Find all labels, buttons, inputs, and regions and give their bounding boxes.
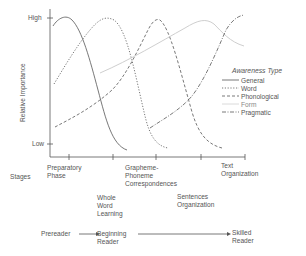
stages-label: Stages <box>10 173 31 181</box>
legend-swatch-dashed <box>222 94 239 98</box>
chart-canvas <box>0 0 306 256</box>
series-general <box>53 17 127 150</box>
legend-swatch-dotted <box>222 86 239 90</box>
stage-sentences: Sentences Organization <box>177 193 214 209</box>
arrowhead-icon <box>227 232 231 236</box>
legend-item-form: Form <box>222 100 256 108</box>
legend-label: Pragmatic <box>241 109 271 116</box>
series-phonological <box>55 19 222 148</box>
legend-label: Form <box>241 101 256 108</box>
legend-swatch-light <box>222 102 239 106</box>
stage-grapheme: Grapheme- Phoneme Correspondences <box>125 164 177 189</box>
progression-prereader: Prereader <box>41 230 70 238</box>
legend-item-word: Word <box>222 84 257 92</box>
legend-label: General <box>241 77 264 84</box>
y-axis-label: Relative Importance <box>19 63 26 122</box>
stage-whole-word: Whole Word Learning <box>97 194 123 219</box>
legend-title: Awareness Type <box>232 67 282 74</box>
legend-label: Word <box>241 85 257 92</box>
series-form <box>100 21 244 73</box>
legend-swatch-solid <box>222 78 239 82</box>
stage-preparatory: Preparatory Phase <box>47 164 81 180</box>
series-word <box>54 18 168 148</box>
progression-skilled: Skilled Reader <box>232 229 254 245</box>
y-tick-label-low: Low <box>32 140 44 148</box>
y-tick-label-high: High <box>28 14 42 22</box>
legend-item-general: General <box>222 76 264 84</box>
legend-swatch-dash-dot <box>222 110 239 114</box>
progression-beginning: Beginning Reader <box>97 230 126 246</box>
legend-item-pragmatic: Pragmatic <box>222 108 271 116</box>
legend-label: Phonological <box>241 93 279 100</box>
legend-item-phonological: Phonological <box>222 92 279 100</box>
stage-text: Text Organization <box>221 162 258 178</box>
